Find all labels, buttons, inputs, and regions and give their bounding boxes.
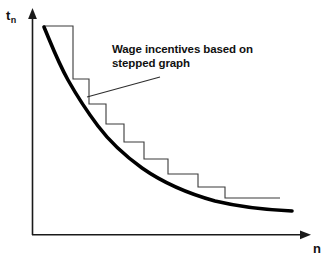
graph-svg (0, 0, 333, 262)
annotation-leader-line (87, 77, 160, 97)
y-axis-label-subscript: n (10, 15, 16, 25)
y-axis-arrowhead (28, 8, 37, 19)
y-axis-label: tn (6, 9, 16, 25)
annotation-text: Wage incentives based on stepped graph (112, 43, 302, 70)
y-axis (28, 8, 37, 235)
figure-canvas: tn n Wage incentives based on stepped gr… (0, 0, 333, 262)
x-axis-arrowhead (300, 230, 311, 239)
x-axis (32, 230, 311, 239)
x-axis-label: n (313, 242, 321, 255)
